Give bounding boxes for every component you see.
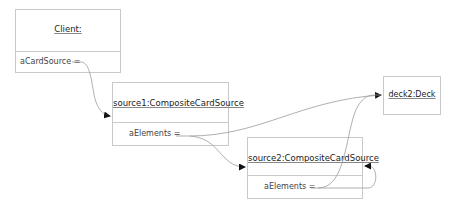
compartment-divider (113, 122, 228, 123)
object-deck2[interactable]: deck2:Deck (383, 76, 441, 115)
object-client[interactable]: Client: aCardSource = (15, 9, 121, 73)
attribute-aelements: aElements = (264, 182, 315, 191)
compartment-divider (16, 51, 120, 52)
object-title: deck2:Deck (384, 90, 440, 99)
object-source1[interactable]: source1:CompositeCardSource aElements = (112, 82, 229, 146)
object-source2[interactable]: source2:CompositeCardSource aElements = (247, 137, 363, 199)
object-title: Client: (16, 24, 120, 34)
object-title: source1:CompositeCardSource (113, 98, 228, 108)
object-title: source2:CompositeCardSource (248, 153, 362, 163)
attribute-aelements: aElements = (129, 129, 180, 138)
compartment-divider (248, 175, 362, 176)
attribute-acardsource: aCardSource = (20, 57, 80, 66)
